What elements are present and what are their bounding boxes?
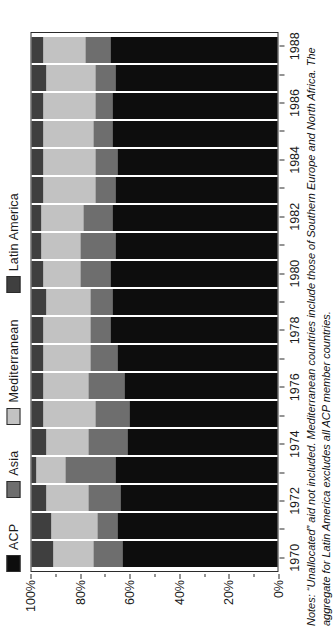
x-tick-mark — [279, 245, 284, 246]
bar-segment-mediterranean — [43, 345, 90, 371]
bar-segment-asia — [95, 149, 117, 175]
bar-segment-acp — [112, 93, 277, 119]
x-tick-mark — [279, 302, 284, 303]
y-tick-label: 20% — [221, 580, 235, 605]
bar-segment-mediterranean — [36, 457, 66, 483]
chart-notes: Notes: “Unallocated” aid not included. M… — [303, 2, 332, 626]
bar-segment-mediterranean — [43, 261, 80, 287]
x-tick-mark — [279, 387, 284, 388]
legend-item-asia: Asia — [6, 451, 20, 498]
bar-segment-asia — [88, 373, 125, 399]
bar-segment-mediterranean — [43, 317, 90, 343]
y-tick-label: 60% — [122, 580, 136, 605]
bar-column — [31, 457, 277, 483]
bar-segment-asia — [93, 541, 123, 567]
x-tick-mark — [279, 159, 284, 160]
bar-segment-mediterranean — [43, 121, 92, 147]
x-tick-mark — [279, 500, 284, 501]
bar-segment-mediterranean — [43, 37, 85, 63]
y-axis: 0%20%40%60%80%100% — [30, 574, 278, 628]
bar-segment-latin-america — [31, 401, 43, 427]
bar-segment-asia — [90, 317, 110, 343]
bar-segment-acp — [124, 373, 277, 399]
bar-segment-asia — [80, 233, 114, 259]
bar-segment-asia — [95, 93, 112, 119]
bar-segment-acp — [112, 289, 277, 315]
bar-segment-latin-america — [31, 177, 43, 203]
bar-segment-acp — [112, 121, 277, 147]
bar-column — [31, 93, 277, 119]
bar-segment-asia — [83, 205, 113, 231]
bar-segment-asia — [97, 513, 117, 539]
bar-segment-acp — [110, 317, 277, 343]
bar-segment-asia — [93, 121, 113, 147]
bar-segment-latin-america — [31, 485, 46, 511]
bar-column — [31, 121, 277, 147]
legend-swatch-asia — [6, 481, 20, 498]
legend-item-latin-america: Latin America — [6, 193, 20, 293]
bar-segment-latin-america — [31, 317, 43, 343]
y-tick-mark — [179, 574, 180, 579]
bar-segment-mediterranean — [41, 205, 83, 231]
bar-segment-acp — [122, 541, 277, 567]
bar-segment-acp — [112, 205, 277, 231]
bar-segment-asia — [88, 429, 127, 455]
y-tick-mark-minor — [204, 574, 205, 577]
x-tick-mark — [279, 415, 284, 416]
bar-segment-mediterranean — [46, 65, 95, 91]
plot-area — [30, 32, 278, 572]
bar-column — [31, 513, 277, 539]
bar-segment-mediterranean — [46, 429, 88, 455]
bar-segment-mediterranean — [53, 541, 92, 567]
bar-segment-mediterranean — [43, 373, 87, 399]
bar-segment-acp — [120, 485, 277, 511]
bar-segment-asia — [95, 65, 115, 91]
legend-swatch-mediterranean — [6, 408, 20, 425]
chart-figure: ACP Asia Mediterranean Latin America 0%2… — [0, 0, 335, 628]
bar-segment-acp — [110, 37, 277, 63]
bar-segment-asia — [90, 345, 117, 371]
y-tick-label: 40% — [172, 580, 186, 605]
y-tick-mark-minor — [55, 574, 56, 577]
bar-column — [31, 37, 277, 63]
x-tick-label: 1984 — [287, 146, 301, 174]
bar-segment-latin-america — [31, 149, 43, 175]
bar-segment-latin-america — [31, 93, 43, 119]
bar-segment-mediterranean — [46, 485, 88, 511]
bar-segment-latin-america — [31, 65, 46, 91]
bar-segment-mediterranean — [51, 513, 98, 539]
legend-label-latin-america: Latin America — [6, 193, 20, 271]
bar-segment-acp — [129, 401, 277, 427]
notes-text: “Unallocated” aid not included. Mediterr… — [304, 47, 331, 626]
y-tick-label: 80% — [73, 580, 87, 605]
y-tick-mark — [129, 574, 130, 579]
x-tick-mark — [279, 529, 284, 530]
bar-segment-latin-america — [31, 233, 41, 259]
bar-segment-latin-america — [31, 37, 43, 63]
x-tick-label: 1972 — [287, 487, 301, 515]
bar-segment-acp — [117, 345, 277, 371]
bar-segment-acp — [115, 177, 277, 203]
y-tick-mark-minor — [104, 574, 105, 577]
bar-column — [31, 317, 277, 343]
x-tick-label: 1980 — [287, 260, 301, 288]
legend-label-acp: ACP — [6, 524, 20, 550]
legend-label-asia: Asia — [6, 451, 20, 476]
bar-column — [31, 177, 277, 203]
bar-column — [31, 485, 277, 511]
bar-column — [31, 149, 277, 175]
x-tick-mark — [279, 74, 284, 75]
bar-column — [31, 261, 277, 287]
bar-segment-latin-america — [31, 373, 43, 399]
x-tick-mark — [279, 444, 284, 445]
bar-column — [31, 429, 277, 455]
y-tick-mark — [278, 574, 279, 579]
bar-segment-acp — [115, 233, 277, 259]
bar-column — [31, 401, 277, 427]
y-tick-mark — [80, 574, 81, 579]
bar-segment-acp — [115, 457, 277, 483]
x-tick-mark — [279, 131, 284, 132]
bar-segment-mediterranean — [43, 401, 95, 427]
bar-segment-mediterranean — [43, 149, 95, 175]
bar-segment-latin-america — [31, 205, 41, 231]
